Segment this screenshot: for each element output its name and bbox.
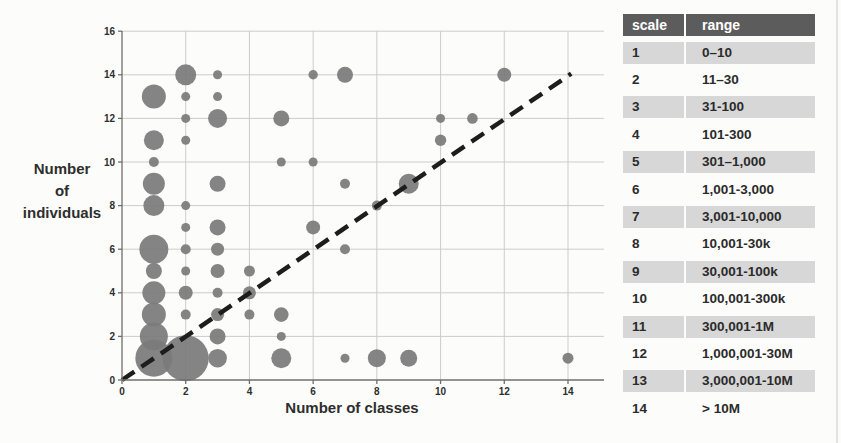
y-tick-label: 2	[109, 331, 115, 342]
range-cell: 30,001-100k	[684, 261, 815, 283]
table-row: 11300,001-1M	[623, 313, 815, 340]
x-tick-label: 8	[374, 386, 380, 397]
table-row: 211–30	[623, 66, 815, 93]
range-cell: 3,001-10,000	[684, 206, 815, 228]
bubble-point	[179, 286, 193, 300]
scale-cell: 2	[623, 69, 684, 91]
scale-cell: 6	[623, 179, 684, 201]
bubble-point	[143, 195, 164, 216]
bubble-point	[210, 219, 226, 235]
y-axis-title-line: of	[14, 180, 110, 202]
y-axis-title: Number of individuals	[14, 158, 110, 224]
bubble-point	[271, 348, 291, 368]
bubble-point	[213, 92, 222, 101]
y-tick-label: 4	[109, 287, 115, 298]
scale-cell: 10	[623, 288, 684, 310]
bubble-point	[213, 70, 222, 79]
x-tick-label: 0	[119, 386, 125, 397]
y-tick-label: 6	[109, 244, 115, 255]
range-cell: 3,000,001-10M	[684, 370, 815, 392]
table-row: 61,001-3,000	[623, 176, 815, 203]
scale-cell: 5	[623, 151, 684, 173]
range-cell: 31-100	[684, 96, 815, 118]
x-tick-label: 6	[310, 386, 316, 397]
bubble-point	[277, 158, 286, 167]
table-row: 930,001-100k	[623, 258, 815, 285]
scale-cell: 11	[623, 316, 684, 338]
range-cell: 0–10	[684, 42, 815, 64]
bubble-point	[340, 354, 349, 363]
bubble-point	[277, 332, 286, 341]
bubble-point	[142, 85, 166, 109]
bubble-point	[244, 310, 254, 320]
scale-cell: 12	[623, 343, 684, 365]
table-header-row: scale range	[623, 14, 815, 36]
table-row: 10–10	[623, 39, 815, 66]
range-column-header: range	[684, 14, 815, 36]
bubble-chart: 024681012141602468101214 Number of indiv…	[0, 0, 620, 443]
bubble-point	[181, 267, 190, 276]
range-cell: 10,001-30k	[684, 233, 815, 255]
bubble-point	[308, 70, 317, 79]
scale-cell: 8	[623, 233, 684, 255]
table-row: 133,000,001-10M	[623, 368, 815, 395]
y-tick-label: 12	[104, 113, 116, 124]
scale-cell: 7	[623, 206, 684, 228]
bubble-point	[562, 353, 573, 364]
bubble-point	[181, 223, 190, 232]
range-cell: 100,001-300k	[684, 288, 815, 310]
scale-cell: 13	[623, 370, 684, 392]
range-cell: 11–30	[684, 69, 815, 91]
bubble-point	[309, 158, 318, 167]
bubble-point	[244, 266, 255, 277]
bubble-point	[163, 335, 209, 381]
bubble-point	[211, 243, 224, 256]
x-tick-label: 10	[435, 386, 447, 397]
scale-cell: 3	[623, 96, 684, 118]
table-body: 10–10211–30331-1004101-3005301–1,00061,0…	[623, 39, 815, 422]
range-cell: 1,001-3,000	[684, 179, 815, 201]
bubble-point	[175, 64, 196, 85]
bubble-point	[368, 349, 386, 367]
bubble-point	[400, 350, 417, 367]
bubble-point	[181, 244, 191, 254]
table-row: 331-100	[623, 94, 815, 121]
x-tick-label: 14	[562, 386, 574, 397]
bubble-point	[340, 244, 350, 254]
table-row: 14> 10M	[623, 395, 815, 422]
bubble-point	[273, 110, 289, 126]
scale-column-header: scale	[623, 14, 684, 36]
scale-cell: 4	[623, 124, 684, 146]
x-tick-label: 4	[247, 386, 253, 397]
bubble-point	[210, 176, 226, 192]
bubble-point	[181, 201, 190, 210]
scale-cell: 14	[623, 398, 684, 420]
range-cell: 301–1,000	[684, 151, 815, 173]
y-tick-label: 16	[104, 26, 116, 37]
bubble-point	[208, 109, 227, 128]
range-cell: 1,000,001-30M	[684, 343, 815, 365]
bubble-point	[139, 235, 168, 264]
bubble-point	[213, 288, 223, 298]
y-tick-label: 14	[104, 69, 116, 80]
bubble-point	[208, 349, 227, 368]
bubble-point	[181, 310, 191, 320]
y-axis-title-line: Number	[14, 158, 110, 180]
bubble-point	[143, 173, 165, 195]
table-row: 810,001-30k	[623, 231, 815, 258]
table-row: 10100,001-300k	[623, 286, 815, 313]
bubble-point	[146, 263, 162, 279]
table-row: 73,001-10,000	[623, 203, 815, 230]
bubble-point	[497, 68, 511, 82]
bubble-point	[181, 114, 190, 123]
bubble-point	[337, 67, 353, 83]
table-row: 4101-300	[623, 121, 815, 148]
bubble-point	[435, 135, 446, 146]
scale-cell: 1	[623, 42, 684, 64]
x-tick-label: 2	[183, 386, 189, 397]
range-cell: 300,001-1M	[684, 316, 815, 338]
bubble-point	[181, 136, 190, 145]
table-row: 121,000,001-30M	[623, 340, 815, 367]
bubble-point	[467, 113, 478, 124]
y-axis-title-line: individuals	[14, 202, 110, 224]
